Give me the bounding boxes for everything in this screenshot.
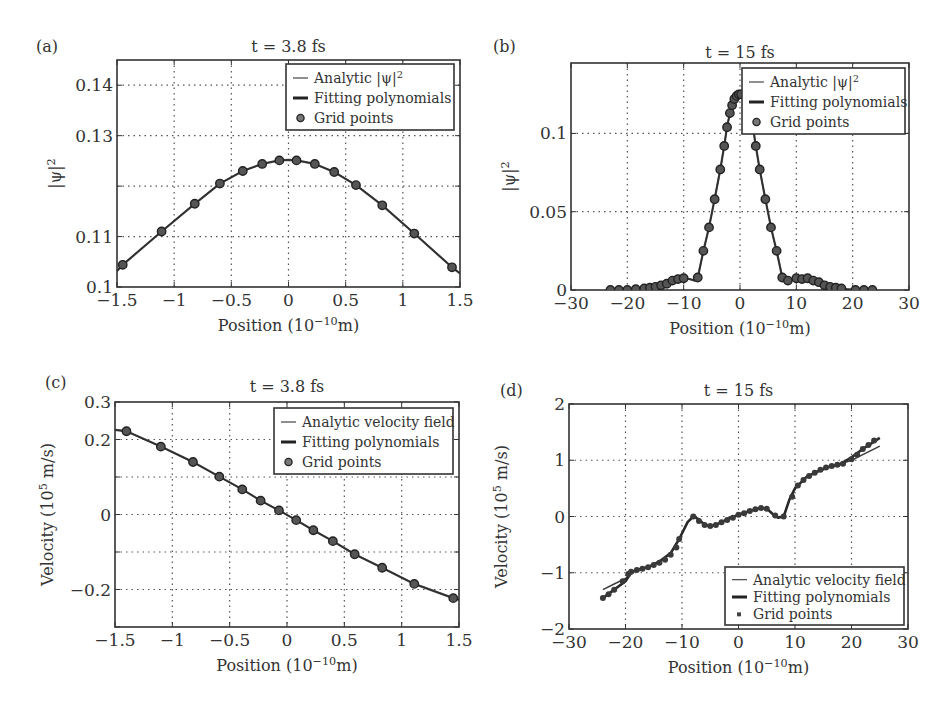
grid-point xyxy=(772,247,780,255)
legend-label: Fitting polynomials xyxy=(314,90,451,106)
grid-point xyxy=(639,566,645,572)
grid-point xyxy=(834,462,840,468)
grid-point xyxy=(309,526,317,534)
x-tick-label: −0.5 xyxy=(209,630,250,650)
grid-point xyxy=(707,523,713,529)
grid-point xyxy=(764,506,770,512)
chart-title: t = 3.8 fs xyxy=(251,37,326,56)
grid-point xyxy=(840,461,846,467)
x-axis-label: Position (10−10m) xyxy=(216,655,357,676)
y-tick-label: 0.11 xyxy=(75,227,113,247)
y-tick-label: 1 xyxy=(554,450,565,470)
x-tick-label: 0 xyxy=(735,293,746,313)
grid-point xyxy=(350,550,358,558)
y-tick-label: −0.2 xyxy=(70,580,111,600)
y-tick-label: −2 xyxy=(540,619,565,639)
grid-point xyxy=(823,465,829,471)
grid-point xyxy=(378,564,386,572)
grid-point xyxy=(829,463,835,469)
legend-label: Grid points xyxy=(302,454,381,470)
x-tick-label: 1 xyxy=(397,290,408,310)
x-tick-label: 0.5 xyxy=(331,630,358,650)
grid-point xyxy=(216,179,224,187)
y-axis-label: |ψ|2 xyxy=(45,158,66,188)
grid-point xyxy=(716,165,724,173)
x-tick-label: 30 xyxy=(897,632,919,652)
y-tick-label: 0.13 xyxy=(75,126,113,146)
grid-point xyxy=(705,223,713,231)
legend-label: Analytic velocity field xyxy=(301,414,455,430)
grid-point xyxy=(741,510,747,516)
grid-point xyxy=(330,168,338,176)
legend-label: Grid points xyxy=(314,110,393,126)
x-tick-label: 0 xyxy=(283,290,294,310)
grid-point xyxy=(628,569,634,575)
grid-point xyxy=(311,160,319,168)
grid-point xyxy=(860,446,866,452)
grid-point xyxy=(710,195,718,203)
x-axis-label: Position (10−10m) xyxy=(218,315,359,336)
y-tick-label: 0.3 xyxy=(84,392,111,412)
figure: (a)t = 3.8 fs−1.5−1−0.500.511.50.10.110.… xyxy=(0,0,952,714)
panel-label: (c) xyxy=(45,373,66,392)
grid-point xyxy=(215,472,223,480)
x-tick-label: 1 xyxy=(396,630,407,650)
grid-point xyxy=(849,456,855,462)
x-tick-label: −1 xyxy=(162,290,187,310)
legend: Analytic |ψ|2Fitting polynomialsGrid poi… xyxy=(286,64,454,130)
grid-point xyxy=(736,512,742,518)
x-axis-label: Position (10−10m) xyxy=(668,657,809,678)
grid-point xyxy=(410,229,418,237)
grid-point xyxy=(600,595,606,601)
y-tick-label: 0.14 xyxy=(75,75,113,95)
x-tick-label: −0.5 xyxy=(211,290,252,310)
grid-point xyxy=(730,515,736,521)
y-tick-label: −1 xyxy=(540,563,565,583)
y-tick-label: 0.1 xyxy=(86,277,113,297)
legend-label: Fitting polynomials xyxy=(753,589,890,605)
grid-point xyxy=(352,181,360,189)
y-axis-label: Velocity (105 m/s) xyxy=(491,445,512,589)
x-tick-label: −1.5 xyxy=(94,630,135,650)
grid-point xyxy=(756,165,764,173)
grid-point xyxy=(239,167,247,175)
grid-point xyxy=(800,477,806,483)
y-tick-label: 0.1 xyxy=(540,123,567,143)
legend-label: Fitting polynomials xyxy=(302,434,439,450)
legend-marker-icon xyxy=(737,612,741,616)
grid-point xyxy=(189,458,197,466)
chart-title: t = 3.8 fs xyxy=(250,377,325,396)
y-tick-label: 2 xyxy=(554,394,565,414)
grid-point xyxy=(329,537,337,545)
x-tick-label: 0.5 xyxy=(332,290,359,310)
grid-point xyxy=(673,544,679,550)
grid-point xyxy=(781,514,787,520)
grid-point xyxy=(726,109,734,117)
legend-label: Analytic |ψ|2 xyxy=(313,69,403,88)
legend-label: Grid points xyxy=(770,114,849,130)
grid-point xyxy=(620,578,626,584)
grid-point xyxy=(837,284,845,292)
grid-point xyxy=(772,512,778,518)
grid-point xyxy=(292,516,300,524)
legend-marker-icon xyxy=(285,458,292,465)
x-tick-label: 20 xyxy=(842,293,864,313)
grid-point xyxy=(713,522,719,528)
chart-title: t = 15 fs xyxy=(704,381,774,400)
legend: Analytic velocity fieldFitting polynomia… xyxy=(274,408,455,474)
grid-point xyxy=(275,506,283,514)
grid-point xyxy=(651,562,657,568)
grid-point xyxy=(119,261,127,269)
legend-label: Analytic velocity field xyxy=(752,572,906,588)
grid-point xyxy=(676,536,682,542)
grid-point xyxy=(817,467,823,473)
grid-point xyxy=(696,518,702,524)
grid-point xyxy=(656,560,662,566)
grid-point xyxy=(719,519,725,525)
grid-point xyxy=(122,427,130,435)
x-tick-label: −20 xyxy=(609,293,645,313)
x-axis-label: Position (10−10m) xyxy=(669,318,810,339)
grid-point xyxy=(292,156,300,164)
grid-point xyxy=(752,506,758,512)
panel-d: (d)t = 15 fs−30−20−100102030−2−1012Posit… xyxy=(491,381,919,677)
